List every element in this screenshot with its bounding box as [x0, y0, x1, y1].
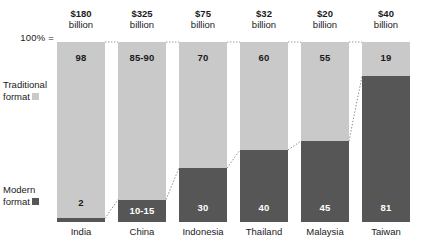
column-total-thailand: $32 billion — [240, 8, 288, 30]
column-total-amount: $325 — [131, 8, 152, 19]
bar-malaysia: 55 45 — [301, 42, 349, 222]
bar-value-modern: 2 — [57, 197, 105, 208]
column-total-amount: $40 — [378, 8, 394, 19]
category-label-india: India — [51, 226, 111, 237]
column-total-malaysia: $20 billion — [301, 8, 349, 30]
bar-value-modern: 10-15 — [118, 205, 166, 216]
column-china: $325 billion 85-90 10-15 China — [118, 0, 166, 251]
legend-modern-line2: format — [3, 196, 30, 207]
legend-item-traditional: Traditional format — [3, 79, 57, 102]
column-total-amount: $20 — [317, 8, 333, 19]
legend-traditional-line2: format — [3, 91, 30, 102]
column-total-unit: billion — [179, 19, 227, 30]
bar-segment-modern — [57, 218, 105, 222]
column-total-amount: $75 — [195, 8, 211, 19]
bar-value-traditional: 70 — [179, 52, 227, 63]
bar-value-traditional: 19 — [362, 52, 410, 63]
legend-traditional-line1: Traditional — [3, 79, 47, 90]
bar-segment-modern — [362, 76, 410, 222]
category-label-taiwan: Taiwan — [356, 226, 416, 237]
legend-traditional-swatch-icon — [32, 93, 39, 100]
bar-value-modern: 30 — [179, 202, 227, 213]
column-india: $180 billion 98 2 India — [57, 0, 105, 251]
category-label-malaysia: Malaysia — [295, 226, 355, 237]
legend-modern-swatch-icon — [32, 198, 39, 205]
column-indonesia: $75 billion 70 30 Indonesia — [179, 0, 227, 251]
column-total-unit: billion — [362, 19, 410, 30]
column-total-unit: billion — [118, 19, 166, 30]
legend-modern-line1: Modern — [3, 184, 35, 195]
column-total-unit: billion — [57, 19, 105, 30]
column-thailand: $32 billion 60 40 Thailand — [240, 0, 288, 251]
bar-segment-traditional — [118, 42, 166, 200]
bar-indonesia: 70 30 — [179, 42, 227, 222]
bar-thailand: 60 40 — [240, 42, 288, 222]
axis-100-percent-label: 100% = — [6, 32, 54, 43]
column-malaysia: $20 billion 55 45 Malaysia — [301, 0, 349, 251]
column-total-taiwan: $40 billion — [362, 8, 410, 30]
bar-segment-traditional — [57, 42, 105, 218]
column-taiwan: $40 billion 19 81 Taiwan — [362, 0, 410, 251]
bar-india: 98 2 — [57, 42, 105, 222]
column-total-china: $325 billion — [118, 8, 166, 30]
category-label-china: China — [112, 226, 172, 237]
bar-value-modern: 40 — [240, 202, 288, 213]
bar-value-traditional: 55 — [301, 52, 349, 63]
plot-area: $180 billion 98 2 India $325 billion 85-… — [57, 0, 422, 251]
category-label-thailand: Thailand — [234, 226, 294, 237]
column-total-india: $180 billion — [57, 8, 105, 30]
column-total-unit: billion — [301, 19, 349, 30]
bar-taiwan: 19 81 — [362, 42, 410, 222]
bar-value-traditional: 60 — [240, 52, 288, 63]
category-label-indonesia: Indonesia — [173, 226, 233, 237]
bar-value-traditional: 98 — [57, 52, 105, 63]
bar-value-modern: 45 — [301, 202, 349, 213]
bar-value-modern: 81 — [362, 202, 410, 213]
bar-china: 85-90 10-15 — [118, 42, 166, 222]
stacked-bar-chart: 100% = Traditional format Modern format … — [0, 0, 422, 251]
column-total-amount: $32 — [256, 8, 272, 19]
legend-item-modern: Modern format — [3, 184, 57, 207]
bar-value-traditional: 85-90 — [118, 52, 166, 63]
column-total-unit: billion — [240, 19, 288, 30]
column-total-amount: $180 — [70, 8, 91, 19]
bar-segment-modern — [179, 168, 227, 222]
column-total-indonesia: $75 billion — [179, 8, 227, 30]
